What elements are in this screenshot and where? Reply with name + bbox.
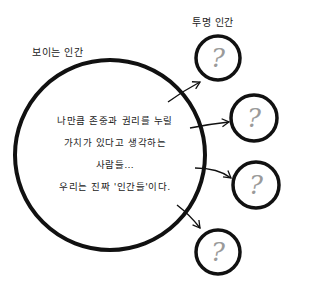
invisible-human-1: ? <box>196 36 240 80</box>
arrow-3 <box>195 168 231 178</box>
question-mark-icon: ? <box>211 237 226 267</box>
invisible-human-2: ? <box>231 95 277 141</box>
invisible-human-label: 투명 인간 <box>192 14 234 29</box>
body-line-1: 나만큼 존중과 권리를 누릴 <box>40 110 190 132</box>
invisible-human-4: ? <box>196 230 240 274</box>
body-line-2: 가치가 있다고 생각하는 <box>40 132 190 154</box>
arrow-2 <box>190 122 229 128</box>
invisible-human-3: ? <box>233 162 279 208</box>
question-mark-icon: ? <box>249 170 264 200</box>
body-line-4: 우리는 진짜 '인간들'이다. <box>40 176 190 198</box>
question-mark-icon: ? <box>211 43 226 73</box>
body-line-3: 사람들… <box>40 154 190 176</box>
visible-human-label: 보이는 인간 <box>32 44 83 59</box>
body-text: 나만큼 존중과 권리를 누릴 가치가 있다고 생각하는 사람들… 우리는 진짜 … <box>40 110 190 198</box>
question-mark-icon: ? <box>247 103 262 133</box>
